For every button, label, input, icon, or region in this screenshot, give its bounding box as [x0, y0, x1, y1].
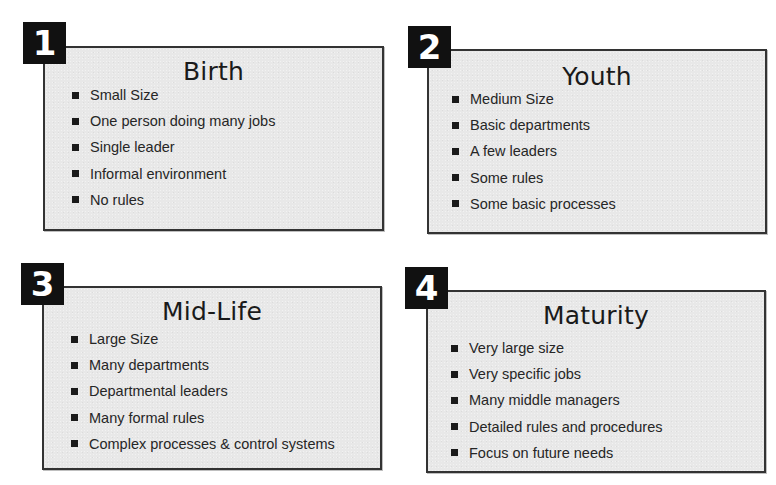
list-item-text: Large Size	[89, 331, 158, 347]
stage-card-mid-life: Mid-Life Large Size Many departments Dep…	[42, 286, 382, 470]
square-bullet-icon	[71, 362, 78, 369]
list-item: Many formal rules	[71, 405, 335, 431]
list-item-text: Very large size	[469, 340, 564, 356]
list-item-text: Informal environment	[90, 166, 226, 182]
list-item-text: Some basic processes	[470, 196, 616, 212]
stage-title: Maturity	[428, 301, 764, 331]
list-item-text: Medium Size	[470, 91, 554, 107]
square-bullet-icon	[72, 170, 79, 177]
list-item-text: Single leader	[90, 139, 175, 155]
list-item-text: Focus on future needs	[469, 445, 613, 461]
list-item: A few leaders	[452, 138, 616, 164]
stage-number-badge: 2	[408, 26, 451, 68]
list-item-text: Small Size	[90, 87, 159, 103]
square-bullet-icon	[452, 200, 459, 207]
list-item-text: One person doing many jobs	[90, 113, 275, 129]
list-item-text: A few leaders	[470, 143, 557, 159]
org-lifecycle-diagram: 1 Birth Small Size One person doing many…	[0, 0, 776, 485]
list-item: Small Size	[72, 82, 275, 108]
square-bullet-icon	[71, 388, 78, 395]
square-bullet-icon	[72, 144, 79, 151]
list-item: Departmental leaders	[71, 378, 335, 404]
stage-card-maturity: Maturity Very large size Very specific j…	[426, 290, 766, 473]
list-item: Many middle managers	[451, 387, 662, 413]
square-bullet-icon	[452, 174, 459, 181]
list-item: Some rules	[452, 165, 616, 191]
list-item: Many departments	[71, 352, 335, 378]
square-bullet-icon	[71, 336, 78, 343]
stage-number-badge: 3	[21, 263, 64, 305]
stage-card-youth: Youth Medium Size Basic departments A fe…	[427, 49, 767, 234]
square-bullet-icon	[71, 440, 78, 447]
stage-characteristics-list: Large Size Many departments Departmental…	[71, 326, 335, 457]
square-bullet-icon	[451, 345, 458, 352]
list-item-text: Some rules	[470, 170, 543, 186]
list-item-text: Departmental leaders	[89, 383, 228, 399]
list-item: Single leader	[72, 134, 275, 160]
square-bullet-icon	[452, 96, 459, 103]
list-item: Basic departments	[452, 112, 616, 138]
square-bullet-icon	[72, 118, 79, 125]
stage-number-badge: 1	[23, 22, 66, 64]
square-bullet-icon	[452, 122, 459, 129]
list-item: Medium Size	[452, 86, 616, 112]
list-item-text: No rules	[90, 192, 144, 208]
list-item: Very large size	[451, 335, 662, 361]
list-item-text: Very specific jobs	[469, 366, 581, 382]
square-bullet-icon	[451, 371, 458, 378]
stage-characteristics-list: Very large size Very specific jobs Many …	[451, 335, 662, 466]
list-item-text: Many formal rules	[89, 410, 204, 426]
list-item: No rules	[72, 187, 275, 213]
list-item: Some basic processes	[452, 191, 616, 217]
stage-card-birth: Birth Small Size One person doing many j…	[43, 46, 384, 231]
square-bullet-icon	[451, 397, 458, 404]
square-bullet-icon	[72, 92, 79, 99]
list-item-text: Complex processes & control systems	[89, 436, 335, 452]
square-bullet-icon	[452, 148, 459, 155]
list-item: Detailed rules and procedures	[451, 414, 662, 440]
list-item: Focus on future needs	[451, 440, 662, 466]
list-item: Complex processes & control systems	[71, 431, 335, 457]
stage-characteristics-list: Small Size One person doing many jobs Si…	[72, 82, 275, 213]
stage-title: Mid-Life	[44, 297, 380, 327]
square-bullet-icon	[451, 423, 458, 430]
square-bullet-icon	[72, 196, 79, 203]
list-item-text: Detailed rules and procedures	[469, 419, 662, 435]
stage-number-badge: 4	[405, 267, 448, 309]
list-item: One person doing many jobs	[72, 108, 275, 134]
stage-characteristics-list: Medium Size Basic departments A few lead…	[452, 86, 616, 217]
list-item-text: Many departments	[89, 357, 209, 373]
list-item-text: Basic departments	[470, 117, 590, 133]
list-item: Large Size	[71, 326, 335, 352]
square-bullet-icon	[451, 449, 458, 456]
list-item: Very specific jobs	[451, 361, 662, 387]
list-item: Informal environment	[72, 161, 275, 187]
square-bullet-icon	[71, 414, 78, 421]
list-item-text: Many middle managers	[469, 392, 620, 408]
